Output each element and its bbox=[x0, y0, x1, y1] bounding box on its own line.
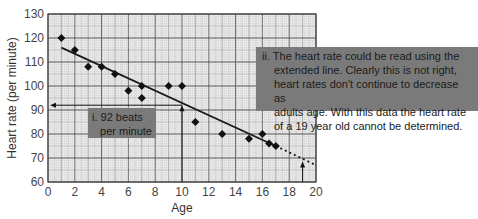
x-tick-label: 6 bbox=[125, 185, 132, 199]
x-tick-label: 12 bbox=[202, 185, 216, 199]
annotation-ii: ii. The heart rate could be read using t… bbox=[256, 47, 478, 111]
annotation-i-line2: per minute bbox=[92, 124, 152, 138]
x-tick-label: 16 bbox=[256, 185, 270, 199]
y-axis-ticks: 60708090100110120130 bbox=[24, 7, 44, 189]
x-axis-label: Age bbox=[171, 201, 193, 215]
y-tick-label: 70 bbox=[31, 151, 45, 165]
y-tick-label: 110 bbox=[25, 55, 44, 69]
annotation-i: i. 92 beats per minute bbox=[88, 108, 156, 138]
annotation-ii-line: ii. The heart rate could be read using t… bbox=[262, 49, 472, 63]
y-tick-label: 80 bbox=[31, 127, 45, 141]
annotation-i-line1: i. 92 beats bbox=[92, 110, 152, 124]
x-tick-label: 2 bbox=[71, 185, 78, 199]
x-axis-ticks: 02468101214161820 bbox=[45, 185, 323, 199]
y-tick-label: 130 bbox=[24, 7, 44, 21]
x-tick-label: 14 bbox=[229, 185, 243, 199]
x-tick-label: 18 bbox=[283, 185, 297, 199]
x-tick-label: 10 bbox=[175, 185, 189, 199]
y-tick-label: 60 bbox=[31, 175, 45, 189]
y-tick-label: 100 bbox=[24, 79, 44, 93]
y-tick-label: 120 bbox=[24, 31, 44, 45]
annotation-ii-line: adults age. With this data the heart rat… bbox=[262, 105, 472, 119]
annotation-ii-line: extended line. Clearly this is not right… bbox=[262, 63, 472, 77]
annotation-ii-line: of a 19 year old cannot be determined. bbox=[262, 119, 472, 133]
y-axis-label: Heart rate (per minute) bbox=[5, 37, 19, 158]
x-tick-label: 20 bbox=[309, 185, 323, 199]
annotation-ii-line: heart rates don't continue to decrease a… bbox=[262, 77, 472, 105]
x-tick-label: 4 bbox=[98, 185, 105, 199]
x-tick-label: 0 bbox=[45, 185, 52, 199]
y-tick-label: 90 bbox=[31, 103, 45, 117]
x-tick-label: 8 bbox=[152, 185, 159, 199]
